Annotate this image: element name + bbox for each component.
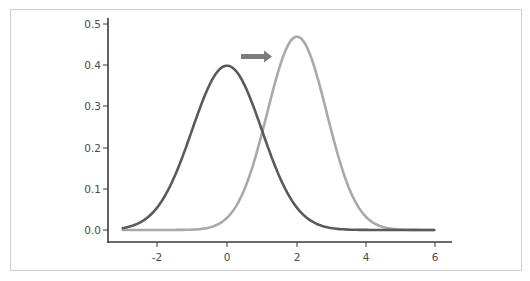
- chart-svg: 0.5 0.4 0.3 0.2 0.1 0.0 -2 0 2 4 6: [0, 0, 530, 281]
- y-tick-label: 0.2: [84, 142, 101, 154]
- x-tick-label: 2: [294, 251, 301, 263]
- x-tick-label: 6: [432, 251, 439, 263]
- original-distribution-curve: [123, 66, 435, 230]
- x-tick-label: 4: [363, 251, 370, 263]
- y-tick-label: 0.1: [84, 183, 101, 195]
- y-tick-label: 0.0: [84, 224, 101, 236]
- shift-arrow-icon: [241, 51, 272, 63]
- shifted-distribution-curve: [123, 37, 435, 230]
- y-tick-label: 0.5: [84, 18, 101, 30]
- y-tick-label: 0.4: [84, 59, 101, 71]
- y-tick-label: 0.3: [84, 100, 101, 112]
- x-tick-label: 0: [224, 251, 231, 263]
- x-tick-label: -2: [152, 251, 162, 263]
